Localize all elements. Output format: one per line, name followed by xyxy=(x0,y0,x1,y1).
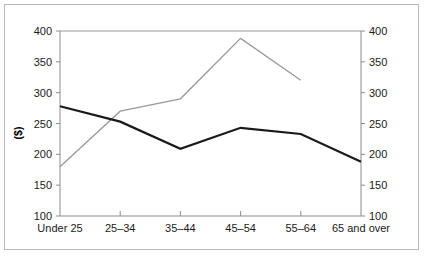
y-tick-label-200: 200 xyxy=(34,148,52,160)
x-tick-label-3: 45–54 xyxy=(225,222,256,234)
y-tick-label-350: 350 xyxy=(34,56,52,68)
y-tick-label-100: 100 xyxy=(34,210,52,222)
y-axis-title: ($) xyxy=(12,127,24,140)
x-tick-label-4: 55–64 xyxy=(286,222,317,234)
series-line-series-gray xyxy=(60,38,301,166)
y2-tick-label-200: 200 xyxy=(369,148,387,160)
chart-stage: 100150200250300350400 100150200250300350… xyxy=(0,0,425,256)
data-series-group xyxy=(60,38,361,166)
x-tick-label-5: 65 and over xyxy=(332,222,390,234)
y-axis-title-group: ($) xyxy=(12,127,24,140)
y2-tick-label-150: 150 xyxy=(369,179,387,191)
y2-tick-label-250: 250 xyxy=(369,118,387,130)
x-tick-label-1: 25–34 xyxy=(105,222,136,234)
series-line-series-black xyxy=(60,106,361,162)
y-tick-label-400: 400 xyxy=(34,25,52,37)
x-tick-label-0: Under 25 xyxy=(37,222,82,234)
x-axis: Under 2525–3435–4445–5455–6465 and over xyxy=(37,211,390,234)
y-tick-label-150: 150 xyxy=(34,179,52,191)
x-tick-label-2: 35–44 xyxy=(165,222,196,234)
y-tick-label-250: 250 xyxy=(34,118,52,130)
line-chart: 100150200250300350400 100150200250300350… xyxy=(0,0,425,256)
right-axis: 100150200250300350400 xyxy=(361,25,387,222)
left-axis: 100150200250300350400 xyxy=(34,25,361,222)
y2-tick-label-350: 350 xyxy=(369,56,387,68)
y2-tick-label-300: 300 xyxy=(369,87,387,99)
y-tick-label-300: 300 xyxy=(34,87,52,99)
y2-tick-label-400: 400 xyxy=(369,25,387,37)
y2-tick-label-100: 100 xyxy=(369,210,387,222)
